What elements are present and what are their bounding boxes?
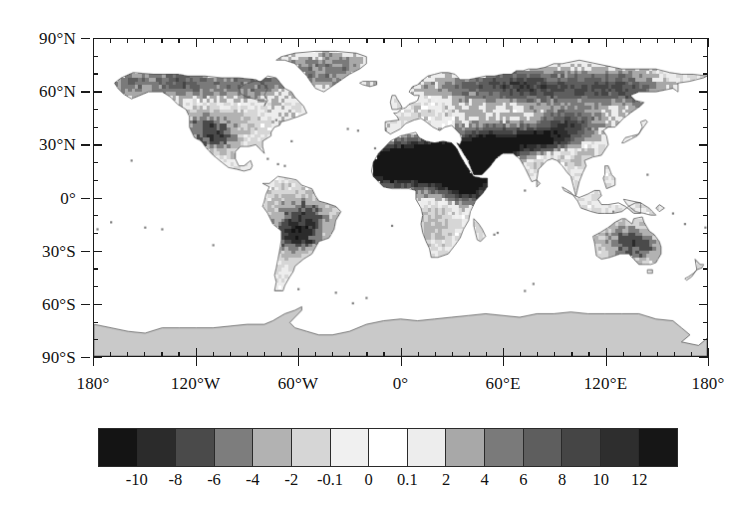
colorbar-cell-0 — [99, 429, 138, 466]
y-tick-outward — [81, 198, 90, 199]
x-tick-major — [196, 348, 197, 357]
y-tick-minor — [93, 268, 98, 269]
colorbar-cell-2 — [176, 429, 215, 466]
y-tick-minor-right — [703, 73, 708, 74]
x-axis-label-4: 60°E — [486, 375, 521, 392]
colorbar-label-11: 8 — [558, 472, 566, 489]
y-tick-major-right — [699, 91, 708, 92]
y-tick-minor-right — [703, 180, 708, 181]
y-tick-minor — [93, 339, 98, 340]
y-tick-major-right — [699, 304, 708, 305]
x-tick-minor — [554, 352, 555, 357]
y-axis-label-6: 90°S — [0, 349, 76, 366]
x-tick-outward — [401, 357, 402, 366]
colorbar-cell-11 — [524, 429, 563, 466]
y-tick-major — [93, 304, 102, 305]
x-tick-minor — [435, 352, 436, 357]
y-tick-minor-right — [703, 162, 708, 163]
y-tick-minor-right — [703, 233, 708, 234]
x-tick-outward — [503, 357, 504, 366]
x-tick-minor — [127, 352, 128, 357]
x-axis-label-0: 180° — [76, 375, 109, 392]
colorbar-cell-14 — [639, 429, 677, 466]
x-tick-minor-top — [383, 38, 384, 43]
y-axis-label-2: 30°N — [0, 136, 76, 153]
y-tick-major — [93, 144, 102, 145]
y-tick-outward — [81, 144, 90, 145]
x-tick-minor — [264, 352, 265, 357]
x-tick-major-top — [298, 38, 299, 47]
x-tick-minor — [281, 352, 282, 357]
y-tick-minor — [93, 127, 98, 128]
y-tick-minor-right — [703, 56, 708, 57]
x-tick-minor-top — [588, 38, 589, 43]
x-tick-minor-top — [657, 38, 658, 43]
x-tick-major — [606, 348, 607, 357]
colorbar-cell-4 — [253, 429, 292, 466]
x-tick-minor — [178, 352, 179, 357]
y-tick-major — [93, 91, 102, 92]
y-tick-major-right — [699, 198, 708, 199]
y-tick-major-right — [699, 251, 708, 252]
x-tick-minor — [486, 352, 487, 357]
x-axis-label-1: 120°W — [171, 375, 220, 392]
x-tick-major — [503, 348, 504, 357]
x-tick-minor-top — [230, 38, 231, 43]
x-tick-minor-top — [469, 38, 470, 43]
x-tick-minor-top — [691, 38, 692, 43]
x-tick-minor-top — [127, 38, 128, 43]
x-tick-minor — [349, 352, 350, 357]
x-tick-minor-top — [161, 38, 162, 43]
x-tick-minor-top — [537, 38, 538, 43]
x-tick-major — [93, 348, 94, 357]
x-tick-minor-top — [623, 38, 624, 43]
y-axis-label-5: 60°S — [0, 295, 76, 312]
y-tick-major-right — [699, 144, 708, 145]
x-axis-label-6: 180° — [691, 375, 724, 392]
x-tick-minor-top — [366, 38, 367, 43]
x-tick-major — [708, 348, 709, 357]
x-tick-minor-top — [247, 38, 248, 43]
x-tick-minor-top — [178, 38, 179, 43]
y-tick-minor — [93, 286, 98, 287]
colorbar-label-9: 4 — [481, 472, 489, 489]
x-tick-major-top — [196, 38, 197, 47]
colorbar-cell-13 — [601, 429, 640, 466]
x-tick-minor — [315, 352, 316, 357]
y-axis-label-1: 60°N — [0, 83, 76, 100]
x-tick-minor-top — [640, 38, 641, 43]
y-tick-outward — [81, 357, 90, 358]
y-tick-minor — [93, 322, 98, 323]
y-tick-minor — [93, 233, 98, 234]
x-axis-label-3: 0° — [393, 375, 409, 392]
x-tick-outward — [606, 357, 607, 366]
global-anomaly-heatmap — [94, 39, 707, 356]
colorbar-cell-7 — [369, 429, 408, 466]
x-tick-minor-top — [520, 38, 521, 43]
colorbar-tick-labels: -10-8-6-4-2-0.100.124681012 — [98, 472, 678, 496]
colorbar-label-8: 2 — [442, 472, 450, 489]
y-axis-label-0: 90°N — [0, 30, 76, 47]
y-tick-outward — [81, 304, 90, 305]
colorbar-label-3: -4 — [246, 472, 260, 489]
x-tick-major-top — [606, 38, 607, 47]
colorbar-cell-6 — [331, 429, 370, 466]
x-tick-minor-top — [554, 38, 555, 43]
y-tick-minor — [93, 109, 98, 110]
x-tick-major-top — [401, 38, 402, 47]
y-tick-minor — [93, 180, 98, 181]
y-tick-minor-right — [703, 322, 708, 323]
colorbar-cell-9 — [446, 429, 485, 466]
y-axis-label-3: 0° — [0, 189, 76, 206]
x-tick-minor — [452, 352, 453, 357]
x-tick-minor-top — [213, 38, 214, 43]
colorbar-cell-1 — [138, 429, 177, 466]
colorbar-swatches — [98, 428, 678, 467]
figure-container: 90°N60°N30°N0°30°S60°S90°S 180°120°W60°W… — [0, 0, 754, 517]
x-tick-minor — [247, 352, 248, 357]
x-tick-minor-top — [264, 38, 265, 43]
y-tick-minor — [93, 162, 98, 163]
x-tick-minor-top — [452, 38, 453, 43]
colorbar-cell-10 — [485, 429, 524, 466]
map-plot-area — [93, 38, 708, 357]
